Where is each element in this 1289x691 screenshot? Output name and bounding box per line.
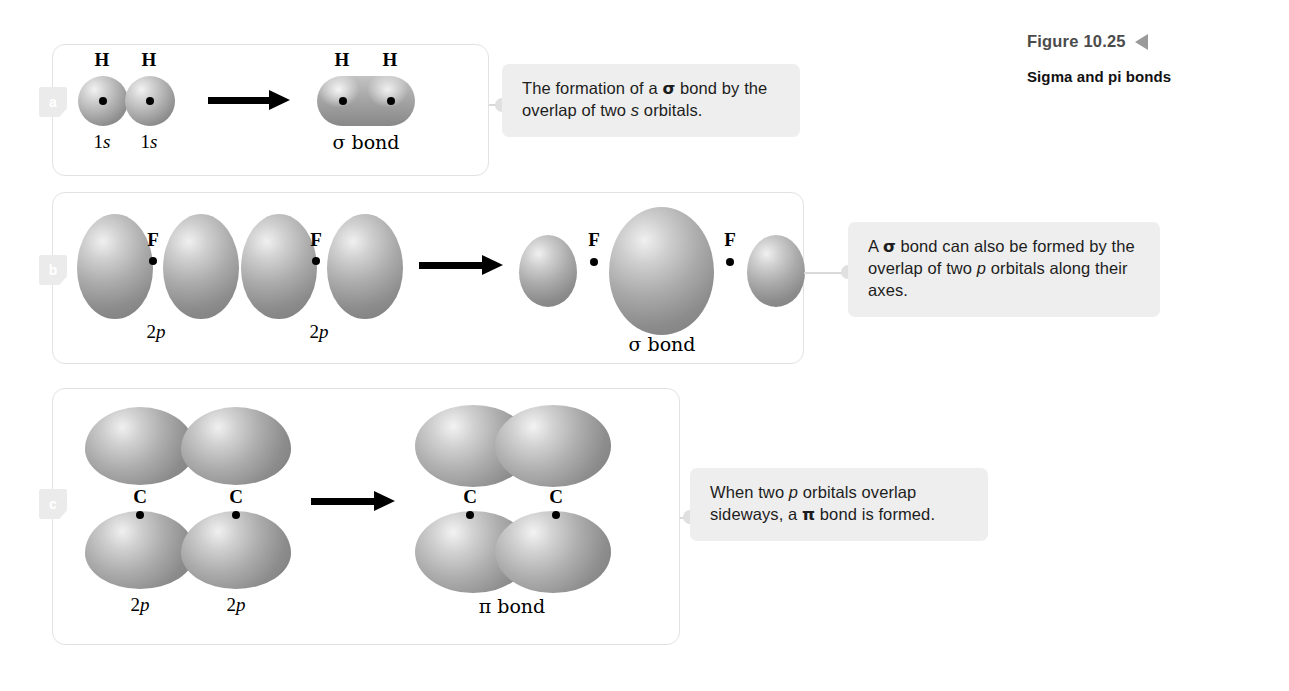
orbital-lobe-2p-1b: [163, 214, 239, 319]
sigma-back-lobe-left: [519, 235, 577, 307]
callout-b-line1-post: bond can also be formed: [896, 237, 1085, 255]
callout-b-sigma-symbol: σ: [883, 237, 896, 256]
orbital-label-2p-1: 2p: [131, 321, 181, 343]
callout-c: When two p orbitals overlap sideways, a …: [690, 468, 988, 541]
atom-label-h-1: H: [87, 49, 117, 71]
atom-label-c-2: C: [225, 486, 247, 508]
product-label-sigma-b: σ bond: [611, 333, 713, 356]
callout-b-line1-pre: A: [868, 237, 883, 255]
callout-c-pi-symbol: π: [802, 505, 815, 524]
nucleus-dot-f-product-1: [590, 258, 598, 266]
nucleus-dot-2: [146, 97, 154, 105]
callout-c-line1-pre: When two: [710, 483, 789, 501]
callout-a-line1-pre: The formation of a: [522, 79, 662, 97]
orbital-label-2p-c2: 2p: [211, 594, 261, 616]
orbital-lobe-2p-c1-top: [85, 407, 195, 485]
product-label-pi-c: π bond: [457, 595, 567, 618]
callout-a-line1-post: bond by: [675, 79, 739, 97]
orbital-lobe-2p-c2-top: [181, 407, 291, 485]
figure-title: Sigma and pi bonds: [1027, 68, 1267, 85]
atom-label-f-product-2: F: [719, 229, 741, 251]
callout-b-line2-post: orbitals: [986, 259, 1045, 277]
atom-label-h-2: H: [134, 49, 164, 71]
atom-label-c-product-1: C: [459, 486, 481, 508]
orbital-label-1s-2: 1s: [134, 131, 164, 153]
callout-a-sigma-symbol: σ: [662, 79, 675, 98]
nucleus-dot-c-2: [232, 511, 240, 519]
sigma-bond-shape-b: [609, 207, 714, 335]
figure-number-row: Figure 10.25: [1027, 32, 1267, 51]
nucleus-dot-f-product-2: [726, 258, 734, 266]
sigma-back-lobe-right: [747, 235, 805, 307]
nucleus-dot-f-1: [149, 257, 157, 265]
panel-b: b F 2p F 2p F F σ bond: [52, 192, 804, 364]
orbital-lobe-2p-2b: [327, 214, 403, 319]
callout-a-line2-post: orbitals.: [639, 101, 702, 119]
nucleus-dot-f-2: [312, 257, 320, 265]
orbital-label-1s-1: 1s: [87, 131, 117, 153]
left-triangle-icon: [1135, 34, 1148, 50]
nucleus-dot-c-product-1: [466, 511, 474, 519]
panel-c: c C 2p C 2p C C π bond: [52, 388, 680, 645]
orbital-lobe-2p-c2-bottom: [181, 511, 291, 589]
nucleus-dot-product-1: [339, 97, 347, 105]
callout-c-line2-pre: sideways, a: [710, 505, 802, 523]
callout-c-line1-post: orbitals overlap: [798, 483, 916, 501]
sigma-bond-shape-a: [317, 76, 415, 126]
callout-a: The formation of a σ bond by the overlap…: [502, 64, 800, 137]
nucleus-dot-1: [99, 97, 107, 105]
figure-number: Figure 10.25: [1027, 32, 1126, 51]
figure-header: Figure 10.25 Sigma and pi bonds: [1027, 32, 1267, 85]
reaction-arrow-b: [419, 255, 505, 276]
atom-label-f-2: F: [305, 229, 327, 251]
atom-label-f-product-1: F: [583, 229, 605, 251]
callout-a-s-italic: s: [631, 101, 639, 119]
callout-b-p-italic: p: [977, 259, 986, 277]
panel-letter-a: a: [39, 87, 67, 117]
atom-label-c-1: C: [129, 486, 151, 508]
orbital-label-2p-c1: 2p: [115, 594, 165, 616]
callout-b: A σ bond can also be formed by the overl…: [848, 222, 1160, 317]
nucleus-dot-c-1: [136, 511, 144, 519]
product-label-sigma-a: σ bond: [316, 131, 416, 154]
panel-a: a H 1s H 1s H H σ bond: [52, 44, 489, 176]
panel-letter-b: b: [39, 255, 67, 285]
pi-bond-shape-top: [415, 405, 611, 487]
panel-letter-c: c: [39, 489, 67, 519]
atom-label-c-product-2: C: [545, 486, 567, 508]
reaction-arrow-c: [311, 491, 397, 512]
atom-label-h-product-1: H: [327, 49, 357, 71]
callout-c-line2-post: bond is formed.: [815, 505, 935, 523]
atom-label-f-1: F: [142, 229, 164, 251]
nucleus-dot-product-2: [387, 97, 395, 105]
orbital-label-2p-2: 2p: [294, 321, 344, 343]
atom-label-h-product-2: H: [375, 49, 405, 71]
nucleus-dot-c-product-2: [552, 511, 560, 519]
orbital-lobe-2p-c1-bottom: [85, 511, 195, 589]
callout-c-p-italic: p: [789, 483, 798, 501]
pi-bond-shape-bottom: [415, 511, 611, 593]
reaction-arrow-a: [208, 90, 290, 111]
